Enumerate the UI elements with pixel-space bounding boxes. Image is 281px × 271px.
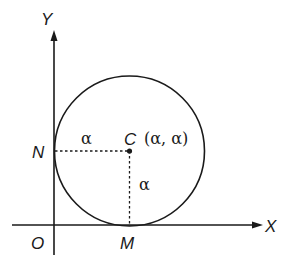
point-n-label: N: [32, 143, 45, 162]
point-m-label: M: [120, 234, 135, 253]
vertical-radius-label: α: [139, 175, 150, 194]
center-coords-label: (α, α): [144, 129, 188, 148]
y-axis-label: Y: [41, 10, 54, 29]
center-label: C: [124, 130, 137, 149]
x-axis-label: X: [264, 217, 277, 236]
center-point: [127, 148, 132, 153]
y-axis-arrowhead: [51, 30, 58, 41]
horizontal-radius-label: α: [81, 129, 92, 148]
circle-tangent-diagram: Y X O N M C (α, α) α α: [0, 0, 281, 271]
x-axis-arrowhead: [252, 222, 263, 229]
origin-label: O: [31, 234, 44, 253]
